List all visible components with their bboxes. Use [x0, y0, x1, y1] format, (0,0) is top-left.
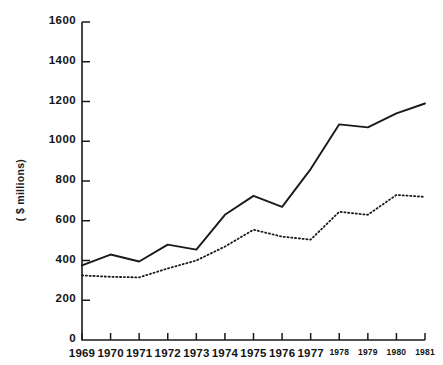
y-tick-label: 600 — [26, 213, 76, 225]
y-tick-label: 1000 — [26, 133, 76, 145]
y-tick-label: 200 — [26, 292, 76, 304]
x-tick-label: 1981 — [400, 347, 443, 357]
chart-figure: ( $ millions) 16001400120010008006004002… — [0, 0, 443, 365]
y-axis-label: ( $ millions) — [14, 159, 26, 221]
y-tick-label: 0 — [26, 332, 76, 344]
y-axis-label-wrapper: ( $ millions) — [10, 130, 30, 250]
tick-marks — [82, 22, 425, 340]
series-lines — [82, 103, 425, 277]
y-tick-label: 1200 — [26, 94, 76, 106]
y-tick-label: 1600 — [26, 14, 76, 26]
y-tick-label: 400 — [26, 253, 76, 265]
axes — [82, 22, 425, 340]
y-tick-label: 800 — [26, 173, 76, 185]
series-line-dotted-series — [82, 195, 425, 277]
series-line-solid-series — [82, 103, 425, 265]
y-tick-label: 1400 — [26, 54, 76, 66]
